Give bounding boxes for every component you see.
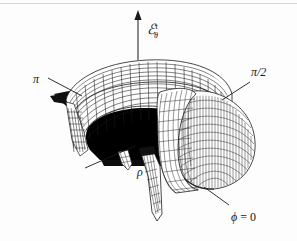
label-phi-zero: ϕ = 0 [231,211,256,223]
vertical-axis-label: ℰτθ [147,22,158,40]
label-phi-equals: = [240,210,247,224]
surface-mesh-group [48,10,255,221]
label-phi-value: 0 [250,210,256,224]
axis-superscript-tau: τ [155,22,158,31]
label-phi-symbol: ϕ [231,210,237,224]
label-pi-half: π/2 [251,66,266,78]
figure-3d-surface-plot: ℰτθ π π/2 ρ ϕ = 0 [0,0,297,241]
axis-subscript-theta: θ [154,31,158,40]
vertical-axis-arrow [134,10,141,60]
label-pi: π [33,73,39,85]
leader-line-phi-zero [204,187,229,205]
label-rho: ρ [137,166,143,178]
